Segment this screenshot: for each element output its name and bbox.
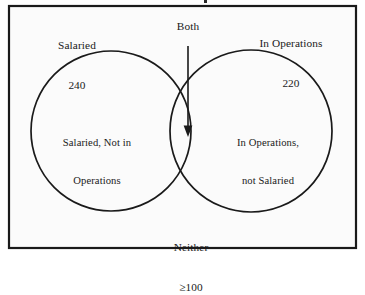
label-set-salaried: Salaried 240 bbox=[34, 12, 120, 119]
region-operations-only-line1: In Operations, bbox=[208, 137, 328, 150]
set-salaried-count: 240 bbox=[34, 79, 120, 92]
label-intersection-both: Both bbox=[152, 20, 224, 33]
label-region-operations-only: In Operations, not Salaried bbox=[208, 112, 328, 212]
region-salaried-only-line2: Operations bbox=[38, 175, 156, 188]
region-neither-name: Neither bbox=[148, 241, 234, 254]
set-in-operations-count: 220 bbox=[238, 77, 344, 90]
label-region-salaried-only: Salaried, Not in Operations bbox=[38, 112, 156, 212]
set-in-operations-name: In Operations bbox=[238, 37, 344, 50]
region-neither-count: ≥100 bbox=[148, 281, 234, 294]
cropped-descender-mark bbox=[204, 0, 207, 3]
region-operations-only-line2: not Salaried bbox=[208, 175, 328, 188]
label-set-in-operations: In Operations 220 bbox=[238, 10, 344, 117]
region-salaried-only-line1: Salaried, Not in bbox=[38, 137, 156, 150]
label-region-neither: Neither ≥100 bbox=[148, 214, 234, 295]
set-salaried-name: Salaried bbox=[34, 39, 120, 52]
